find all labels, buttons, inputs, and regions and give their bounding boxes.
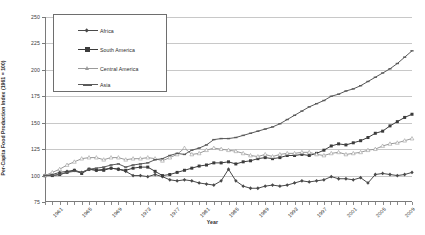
data-point-marker [337,142,340,145]
x-tick-label: 1997 [316,206,329,219]
data-point-marker [352,141,355,144]
data-point-marker [146,175,149,179]
data-point-marker [403,116,406,119]
x-tick-mark [148,202,149,205]
data-point-marker [381,130,384,133]
data-point-marker [308,180,311,184]
data-point-marker [396,120,399,123]
legend-marker-icon [78,65,98,72]
data-point-marker [330,96,333,97]
data-point-marker [249,133,252,134]
x-tick-mark [309,202,310,205]
data-point-marker [51,175,54,176]
data-point-marker [190,150,193,151]
data-point-marker [190,167,193,170]
data-point-marker [381,172,384,176]
x-tick-mark [258,202,259,205]
x-tick-label: 1981 [198,206,211,219]
data-point-marker [124,169,127,172]
x-tick-mark [96,202,97,205]
legend-label: Central America [100,66,138,72]
data-point-marker [264,156,267,159]
data-point-marker [264,184,267,188]
x-tick-label: 2001 [345,206,358,219]
data-point-marker [139,163,142,164]
x-tick-label: 1993 [286,206,299,219]
x-tick-label: 2009 [404,206,417,219]
legend-item-south-america[interactable]: South America [78,46,135,53]
x-tick-mark [339,202,340,205]
legend-marker-icon [78,46,98,53]
data-point-marker [293,115,296,116]
data-point-marker [205,164,208,167]
x-tick-mark [243,202,244,205]
x-tick-mark [324,202,325,205]
series-line [45,114,412,175]
data-point-marker [396,63,399,64]
data-point-marker [154,159,157,160]
x-tick-mark [89,202,90,205]
data-point-marker [205,182,208,186]
x-tick-label: 1977 [169,206,182,219]
data-point-marker [263,152,267,155]
data-point-marker [366,136,369,139]
data-point-marker [161,174,164,177]
y-tick-mark [42,176,45,177]
x-tick-mark [133,202,134,205]
data-point-marker [139,174,142,178]
data-point-marker [344,90,347,91]
data-point-marker [403,173,406,177]
data-point-marker [212,183,215,187]
legend-item-africa[interactable]: Africa [78,27,114,34]
y-tick-mark [42,123,45,124]
data-point-marker [161,158,164,159]
data-point-marker [220,161,223,164]
x-axis-title: Year [0,219,425,225]
data-point-marker [73,171,76,172]
data-point-marker [117,163,120,164]
x-tick-mark [287,202,288,205]
x-tick-mark [199,202,200,205]
data-point-marker [388,124,391,127]
data-point-marker [330,175,333,179]
legend-item-central-america[interactable]: Central America [78,65,138,72]
data-point-marker [227,160,230,163]
data-point-marker [176,171,179,174]
legend-item-asia[interactable]: Asia [78,81,111,88]
data-point-marker [249,186,252,190]
data-point-marker [117,168,120,171]
data-point-marker [352,178,355,182]
data-point-marker [374,77,377,78]
data-point-marker [256,186,259,190]
x-tick-mark [192,202,193,205]
data-point-marker [366,81,369,82]
data-point-marker [337,93,340,94]
x-tick-mark [375,202,376,205]
x-tick-mark [236,202,237,205]
x-tick-mark [317,202,318,205]
data-point-marker [153,173,156,177]
x-tick-mark [331,202,332,205]
data-point-marker [271,126,274,127]
data-point-marker [337,177,340,181]
x-tick-label: 2005 [374,206,387,219]
x-tick-mark [397,202,398,205]
data-point-marker [102,166,105,167]
y-tick-label: 75 [34,199,40,205]
data-point-marker [249,159,252,162]
data-point-marker [308,106,311,107]
data-point-marker [278,184,281,188]
data-point-marker [212,139,215,140]
x-tick-mark [229,202,230,205]
x-tick-mark [111,202,112,205]
data-point-marker [359,85,362,86]
data-point-marker [87,169,90,170]
data-point-marker [344,177,347,181]
x-tick-mark [104,202,105,205]
data-point-marker [168,155,171,156]
data-point-marker [65,172,68,173]
chart-container: Per-Capita Food Production Index (1961 =… [0,0,425,235]
data-point-marker [300,110,303,111]
data-point-marker [234,162,237,165]
data-point-marker [131,164,134,165]
